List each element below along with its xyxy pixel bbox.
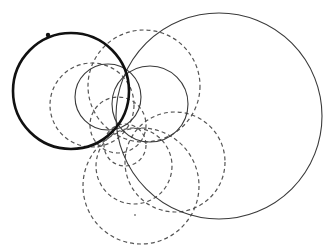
dashed-circle-7 (83, 128, 199, 244)
solid-circle-2 (75, 64, 141, 130)
thick-circle (13, 33, 129, 149)
coaxal-circles-diagram (0, 0, 326, 252)
marked-point-2 (134, 214, 136, 216)
marked-point-1 (46, 33, 50, 37)
solid-circle-3 (112, 66, 188, 142)
dashed-circle-family (50, 30, 225, 244)
dashed-circle-5 (125, 112, 225, 212)
solid-circle-1 (116, 13, 322, 219)
thick-circle-group (13, 33, 129, 149)
marked-points (46, 33, 136, 216)
